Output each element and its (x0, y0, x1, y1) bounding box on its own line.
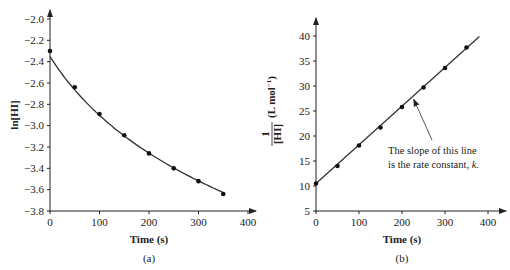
y-tick-label: −3.4 (24, 162, 44, 174)
y-tick-label: 5 (305, 205, 311, 217)
x-tick-label: 200 (394, 216, 411, 228)
data-point (335, 164, 340, 169)
x-tick-label: 100 (91, 216, 108, 228)
caption-a: (a) (143, 252, 156, 265)
y-axis-title-a: ln[HI] (8, 100, 20, 129)
data-point (378, 125, 383, 130)
y-axis-ticks-b: 510152025303540 (299, 30, 316, 217)
data-point (97, 112, 102, 117)
svg-text:1: 1 (259, 131, 271, 137)
data-point (421, 85, 426, 90)
data-point (147, 151, 152, 156)
data-point (357, 143, 362, 148)
x-tick-label: 0 (313, 216, 319, 228)
y-tick-label: −2.2 (24, 34, 44, 46)
x-tick-label: 400 (480, 216, 497, 228)
data-point (48, 49, 53, 54)
x-tick-label: 400 (240, 216, 257, 228)
x-axis-title-a: Time (s) (130, 233, 169, 246)
data-point (400, 105, 405, 110)
annotation-arrow (414, 99, 432, 140)
x-tick-label: 300 (190, 216, 207, 228)
chart-b: 510152025303540 0100200300400 The slope … (259, 18, 506, 265)
x-tick-label: 100 (351, 216, 368, 228)
x-tick-label: 200 (141, 216, 158, 228)
data-point (72, 85, 77, 90)
y-axis-title-b: 1 [HI] (L mol−1) (259, 76, 283, 146)
y-tick-label: 35 (299, 55, 311, 67)
x-tick-label: 0 (47, 216, 53, 228)
data-point (171, 166, 176, 171)
y-tick-label: −3.2 (24, 141, 44, 153)
y-tick-label: 20 (299, 130, 311, 142)
y-tick-label: 30 (299, 80, 311, 92)
fit-curve-a (50, 57, 223, 193)
svg-text:(L mol−1): (L mol−1) (265, 76, 278, 118)
figure: −2.0−2.2−2.4−2.6−2.8−3.0−3.2−3.4−3.6−3.8… (0, 0, 510, 270)
svg-text:[HI]: [HI] (271, 124, 283, 144)
x-axis-title-b: Time (s) (383, 233, 422, 246)
x-tick-label: 300 (437, 216, 454, 228)
data-point (122, 133, 127, 138)
y-tick-label: −3.8 (24, 205, 44, 217)
data-point (221, 192, 226, 197)
x-axis-ticks-b: 0100200300400 (313, 211, 497, 228)
annotation-line-1: The slope of this line (388, 145, 477, 156)
y-tick-label: −3.6 (24, 183, 44, 195)
y-tick-label: −3.0 (24, 119, 44, 131)
y-tick-label: −2.8 (24, 98, 44, 110)
data-point (464, 45, 469, 50)
data-point (196, 179, 201, 184)
chart-a: −2.0−2.2−2.4−2.6−2.8−3.0−3.2−3.4−3.6−3.8… (8, 10, 257, 265)
data-points-a (48, 49, 226, 197)
y-tick-label: 10 (299, 180, 311, 192)
y-axis-ticks-a: −2.0−2.2−2.4−2.6−2.8−3.0−3.2−3.4−3.6−3.8 (24, 13, 50, 217)
y-tick-label: 15 (299, 155, 311, 167)
y-tick-label: 25 (299, 105, 311, 117)
x-axis-ticks-a: 0100200300400 (47, 211, 257, 228)
y-tick-label: −2.0 (24, 13, 44, 25)
y-tick-label: 40 (299, 30, 311, 42)
y-tick-label: −2.4 (24, 55, 44, 67)
annotation-line-2: is the rate constant, k. (388, 159, 479, 170)
data-point (443, 66, 448, 71)
caption-b: (b) (396, 252, 409, 265)
y-tick-label: −2.6 (24, 77, 44, 89)
data-point (314, 181, 319, 186)
